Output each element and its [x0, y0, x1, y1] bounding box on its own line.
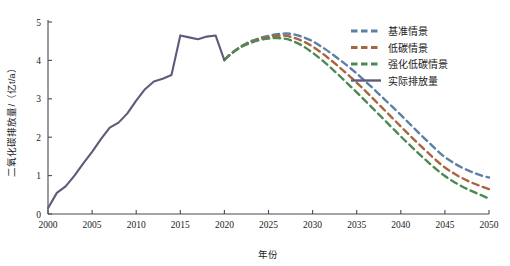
- x-tick-label: 2025: [259, 220, 278, 230]
- x-tick-label: 2050: [480, 220, 499, 230]
- x-tick-label: 2045: [435, 220, 454, 230]
- x-tick-label: 2015: [171, 220, 190, 230]
- emissions-line-chart: 012345 200020052010201520202025203020352…: [0, 0, 510, 266]
- y-tick-label: 2: [36, 133, 41, 143]
- y-axis-ticks: 012345: [36, 18, 52, 220]
- x-tick-label: 2020: [215, 220, 234, 230]
- y-axis-title: 二氧化碳排放量/（亿t/a）: [6, 63, 17, 176]
- legend-label-2: 强化低碳情景: [388, 58, 448, 70]
- x-tick-label: 2000: [39, 220, 58, 230]
- x-tick-label: 2010: [127, 220, 146, 230]
- y-tick-label: 0: [36, 210, 41, 220]
- x-tick-label: 2035: [347, 220, 366, 230]
- series-line-actual_emissions: [48, 35, 224, 208]
- y-tick-label: 5: [36, 18, 41, 28]
- x-tick-label: 2040: [391, 220, 410, 230]
- plot-area: 012345 200020052010201520202025203020352…: [36, 18, 499, 231]
- legend-label-3: 实际排放量: [388, 75, 438, 87]
- y-tick-label: 1: [36, 171, 41, 181]
- x-tick-label: 2005: [83, 220, 102, 230]
- y-tick-label: 4: [36, 56, 41, 66]
- x-axis-ticks: 2000200520102015202020252030203520402045…: [39, 210, 499, 230]
- x-axis-title: 年份: [258, 249, 278, 260]
- series-line-low_carbon: [224, 36, 489, 189]
- chart-legend: 基准情景低碳情景强化低碳情景实际排放量: [351, 25, 448, 87]
- legend-label-1: 低碳情景: [388, 42, 428, 54]
- y-tick-label: 3: [36, 94, 41, 104]
- series-line-baseline: [224, 34, 489, 178]
- chart-figure: 012345 200020052010201520202025203020352…: [0, 0, 510, 266]
- series-line-enhanced_low_carbon: [224, 38, 489, 199]
- x-tick-label: 2030: [303, 220, 322, 230]
- legend-label-0: 基准情景: [388, 25, 428, 37]
